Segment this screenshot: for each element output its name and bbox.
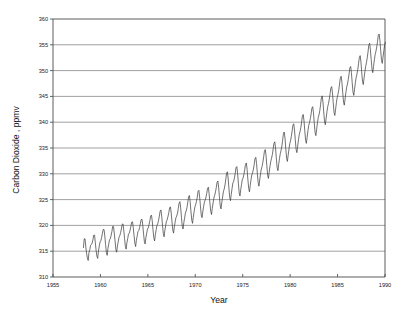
chart-background: [0, 0, 418, 318]
y-tick-label: 355: [39, 42, 48, 48]
y-tick-label: 340: [39, 119, 48, 125]
keeling-curve-chart: 19551960196519701975198019851990 3103153…: [0, 0, 418, 318]
x-tick-label: 1975: [236, 282, 248, 288]
x-tick-label: 1965: [142, 282, 154, 288]
chart-figure: 19551960196519701975198019851990 3103153…: [0, 0, 418, 318]
x-tick-label: 1980: [284, 282, 296, 288]
y-tick-label: 335: [39, 145, 48, 151]
x-tick-label: 1955: [47, 282, 59, 288]
x-tick-label: 1960: [94, 282, 106, 288]
y-tick-label: 345: [39, 93, 48, 99]
y-tick-label: 330: [39, 171, 48, 177]
x-axis-title: Year: [210, 295, 228, 305]
y-axis-title: Carbon Dioxide , ppmv: [11, 106, 21, 194]
y-tick-label: 315: [39, 248, 48, 254]
x-tick-label: 1970: [189, 282, 201, 288]
y-tick-label: 325: [39, 197, 48, 203]
x-tick-label: 1990: [379, 282, 391, 288]
y-tick-label: 320: [39, 222, 48, 228]
x-tick-label: 1985: [331, 282, 343, 288]
y-tick-label: 310: [39, 274, 48, 280]
y-tick-label: 350: [39, 68, 48, 74]
y-tick-label: 360: [39, 16, 48, 22]
